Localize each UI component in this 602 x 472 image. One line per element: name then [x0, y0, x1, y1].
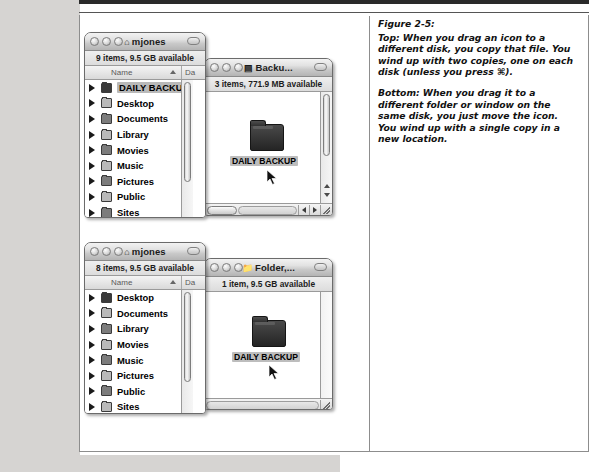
disclosure-triangle-icon[interactable] [89, 403, 95, 411]
window-controls-folder[interactable] [210, 263, 243, 272]
public-folder-icon[interactable] [101, 386, 112, 396]
disclosure-triangle-icon[interactable] [89, 193, 95, 201]
list-item-label[interactable]: Music [117, 160, 144, 171]
disclosure-triangle-icon[interactable] [89, 341, 95, 349]
horizontal-scroll-track[interactable] [206, 401, 319, 410]
sites-folder-icon[interactable] [101, 402, 112, 412]
list-item-label[interactable]: Public [117, 386, 145, 397]
music-folder-icon[interactable] [101, 355, 112, 365]
finder-window-folder[interactable]: 📁Folder,... 1 item, 9.5 GB available DAI… [204, 258, 333, 410]
list-item-label[interactable]: Sites [117, 207, 139, 218]
public-folder-icon[interactable] [101, 192, 112, 202]
disclosure-triangle-icon[interactable] [89, 387, 95, 395]
horizontal-scrollbar-folder[interactable] [205, 398, 332, 410]
vertical-scroll-thumb[interactable] [323, 94, 330, 156]
column-header-date[interactable]: Da [182, 68, 205, 77]
zoom-button-icon[interactable] [234, 263, 243, 272]
disclosure-triangle-icon[interactable] [89, 209, 95, 217]
vertical-scroll-thumb[interactable] [184, 82, 191, 182]
disclosure-triangle-icon[interactable] [89, 115, 95, 123]
list-item-label[interactable]: Movies [117, 145, 149, 156]
minimize-button-icon[interactable] [102, 247, 111, 256]
disclosure-triangle-icon[interactable] [89, 325, 95, 333]
list-item-label[interactable]: Pictures [117, 176, 154, 187]
disclosure-triangle-icon[interactable] [89, 177, 95, 185]
icon-view-folder[interactable]: DAILY BACKUP [205, 292, 332, 398]
window-controls-mjones-top[interactable] [90, 37, 123, 46]
disclosure-triangle-icon[interactable] [89, 309, 95, 317]
vertical-scrollbar-mjones-bottom[interactable] [181, 290, 193, 414]
scroll-down-arrow-icon[interactable] [324, 193, 330, 197]
list-item-label[interactable]: Pictures [117, 370, 154, 381]
window-controls-backup[interactable] [210, 63, 243, 72]
list-item-label[interactable]: Music [117, 355, 144, 366]
titlebar-mjones-top[interactable]: ⌂mjones [85, 33, 205, 51]
list-item-label[interactable]: Sites [117, 401, 139, 412]
column-header-date[interactable]: Da [182, 278, 205, 287]
icon-view-backup[interactable]: DAILY BACKUP [205, 92, 332, 203]
list-item-label[interactable]: Documents [117, 308, 168, 319]
desktop-folder-icon[interactable] [101, 98, 112, 108]
movies-folder-icon[interactable] [101, 145, 112, 155]
column-headers-mjones-bottom[interactable]: Name Da [85, 276, 205, 290]
documents-folder-icon[interactable] [101, 308, 112, 318]
minimize-button-icon[interactable] [222, 263, 231, 272]
zoom-button-icon[interactable] [234, 63, 243, 72]
scroll-left-arrow[interactable] [298, 205, 309, 216]
finder-window-mjones-bottom[interactable]: ⌂mjones 8 items, 9.5 GB available Name D… [84, 242, 206, 414]
titlebar-mjones-bottom[interactable]: ⌂mjones [85, 243, 205, 261]
close-button-icon[interactable] [90, 247, 99, 256]
vertical-scroll-arrows[interactable] [321, 181, 332, 203]
close-button-icon[interactable] [90, 37, 99, 46]
disclosure-triangle-icon[interactable] [89, 162, 95, 170]
library-folder-icon[interactable] [101, 130, 112, 140]
window-controls-mjones-bottom[interactable] [90, 247, 123, 256]
list-item-label[interactable]: Library [117, 129, 149, 140]
zoom-button-icon[interactable] [114, 37, 123, 46]
toolbar-toggle-button[interactable] [314, 63, 327, 71]
disclosure-triangle-icon[interactable] [89, 372, 95, 380]
disclosure-triangle-icon[interactable] [89, 356, 95, 364]
list-item-label[interactable]: DAILY BACKUP [117, 82, 191, 93]
horizontal-scrollbar-backup[interactable] [205, 203, 332, 216]
toolbar-toggle-button[interactable] [314, 263, 327, 271]
pictures-folder-icon[interactable] [101, 371, 112, 381]
list-item-label[interactable]: Movies [117, 339, 149, 350]
resize-grip[interactable] [320, 400, 332, 411]
column-header-name[interactable]: Name [85, 276, 182, 289]
library-folder-icon[interactable] [101, 324, 112, 334]
disclosure-triangle-icon[interactable] [89, 294, 95, 302]
file-list-mjones-top[interactable]: DAILY BACKUPDesktopDocumentsLibraryMovie… [85, 80, 205, 218]
disclosure-triangle-icon[interactable] [89, 146, 95, 154]
horizontal-scroll-thumb[interactable] [207, 206, 237, 215]
list-item-label[interactable]: Public [117, 191, 145, 202]
vertical-scroll-thumb[interactable] [184, 292, 191, 382]
titlebar-folder[interactable]: 📁Folder,... [205, 259, 332, 277]
titlebar-backup[interactable]: ▤Backu... [205, 59, 332, 77]
close-button-icon[interactable] [210, 63, 219, 72]
finder-window-backup[interactable]: ▤Backu... 3 items, 771.9 MB available DA… [204, 58, 333, 216]
list-item-label[interactable]: Desktop [117, 98, 154, 109]
folder-icon-daily-backup[interactable] [252, 320, 286, 347]
disclosure-triangle-icon[interactable] [89, 84, 95, 92]
list-item-label[interactable]: Desktop [117, 292, 154, 303]
horizontal-scroll-track[interactable] [238, 206, 297, 215]
documents-folder-icon[interactable] [101, 114, 112, 124]
finder-window-mjones-top[interactable]: ⌂mjones 9 items, 9.5 GB available Name D… [84, 32, 206, 218]
disclosure-triangle-icon[interactable] [89, 131, 95, 139]
minimize-button-icon[interactable] [222, 63, 231, 72]
folder-icon-daily-backup[interactable] [250, 124, 284, 151]
desktop-folder-icon[interactable] [101, 293, 112, 303]
vertical-scrollbar-folder[interactable] [320, 292, 332, 398]
icon-label-daily-backup[interactable]: DAILY BACKUP [230, 156, 298, 166]
movies-folder-icon[interactable] [101, 340, 112, 350]
disclosure-triangle-icon[interactable] [89, 99, 95, 107]
toolbar-toggle-button[interactable] [187, 247, 200, 255]
column-headers-mjones-top[interactable]: Name Da [85, 66, 205, 80]
list-item-label[interactable]: Library [117, 323, 149, 334]
folder-icon[interactable] [101, 83, 112, 93]
music-folder-icon[interactable] [101, 161, 112, 171]
resize-grip[interactable] [320, 205, 332, 216]
scroll-right-arrow[interactable] [309, 205, 320, 216]
icon-label-daily-backup[interactable]: DAILY BACKUP [232, 352, 300, 362]
